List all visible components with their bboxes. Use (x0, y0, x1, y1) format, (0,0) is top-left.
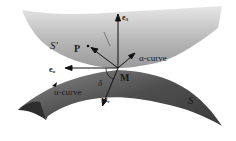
point-M-label: M (120, 72, 130, 83)
alpha-curve-label: α-curve (139, 53, 167, 63)
point-P-dot (87, 45, 90, 48)
u-curve-label: u-curve (54, 87, 81, 97)
surface-S-prime-label: S′ (50, 39, 59, 51)
eu-arrowhead (65, 66, 72, 71)
point-P-label: P (74, 43, 80, 54)
diagram-canvas: e3 eu ev S′ S P M δ α-curve u-curve (0, 0, 236, 141)
eu-label: eu (49, 65, 56, 74)
contact-surfaces-diagram: e3 eu ev S′ S P M δ α-curve u-curve (0, 0, 236, 141)
surface-S-label: S (188, 94, 194, 106)
